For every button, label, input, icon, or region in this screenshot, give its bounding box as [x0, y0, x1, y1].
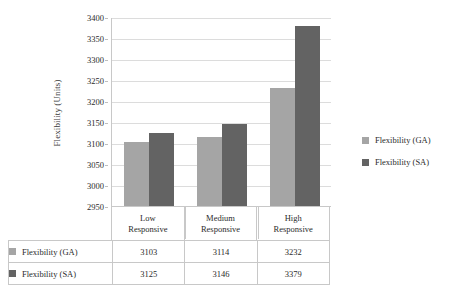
category-label-2: HighResponsive [257, 207, 330, 240]
y-tick-label: 3250 [87, 77, 104, 86]
data-table: Flexibility (GA)310331143232Flexibility … [8, 240, 330, 285]
y-tick-label: 3400 [87, 14, 104, 23]
legend-swatch-icon [362, 137, 369, 144]
category-label-line: Responsive [201, 224, 240, 235]
category-label-line: Responsive [128, 224, 167, 235]
y-tick-label: 3150 [87, 119, 104, 128]
y-axis-title: Flexibility (Units) [52, 18, 66, 208]
bar [149, 133, 174, 207]
category-axis-labels: LowResponsiveMediumResponsiveHighRespons… [111, 207, 330, 240]
y-tick-mark [105, 165, 108, 166]
bar-group [185, 18, 258, 206]
bar [295, 26, 320, 206]
category-label-line: Responsive [274, 224, 313, 235]
bar-group [112, 18, 185, 206]
table-row: Flexibility (SA)312531463379 [9, 263, 330, 285]
y-tick-mark [105, 186, 108, 187]
y-tick-mark [105, 207, 108, 208]
y-tick-label: 3300 [87, 56, 104, 65]
y-tick-mark [105, 81, 108, 82]
table-series-name-cell: Flexibility (GA) [9, 241, 113, 263]
y-axis-tick-labels: 2950300030503100315032003250330033503400 [74, 18, 108, 207]
legend-swatch-icon [362, 159, 369, 166]
y-tick-mark [105, 102, 108, 103]
y-tick-mark [105, 144, 108, 145]
table-value-cell: 3125 [113, 263, 185, 285]
y-tick-label: 3100 [87, 140, 104, 149]
bar [222, 124, 247, 206]
y-tick-mark [105, 39, 108, 40]
y-tick-mark [105, 18, 108, 19]
legend-label: Flexibility (GA) [375, 135, 430, 145]
y-tick-label: 3200 [87, 98, 104, 107]
table-value-cell: 3114 [185, 241, 257, 263]
legend-entry[interactable]: Flexibility (GA) [362, 131, 454, 149]
bar-group [258, 18, 331, 206]
category-label-line: Medium [206, 213, 235, 224]
chart-legend: Flexibility (GA)Flexibility (SA) [362, 131, 454, 175]
table-value-cell: 3103 [113, 241, 185, 263]
data-table-body: Flexibility (GA)310331143232Flexibility … [9, 241, 330, 285]
plot-area [111, 18, 330, 207]
category-label-line: Low [140, 213, 156, 224]
table-series-label: Flexibility (SA) [22, 269, 76, 279]
table-value-cell: 3232 [257, 241, 329, 263]
table-swatch-icon [9, 248, 16, 255]
legend-entry[interactable]: Flexibility (SA) [362, 153, 454, 171]
bar [124, 142, 149, 206]
bar [197, 137, 222, 206]
y-tick-mark [105, 123, 108, 124]
y-tick-label: 3000 [87, 182, 104, 191]
y-tick-mark [105, 60, 108, 61]
table-value-cell: 3379 [257, 263, 329, 285]
legend-label: Flexibility (SA) [375, 157, 429, 167]
y-tick-label: 2950 [87, 203, 104, 212]
category-label-line: High [285, 213, 302, 224]
table-value-cell: 3146 [185, 263, 257, 285]
y-tick-label: 3350 [87, 35, 104, 44]
table-series-label: Flexibility (GA) [22, 247, 77, 257]
table-series-name-cell: Flexibility (SA) [9, 263, 113, 285]
table-row: Flexibility (GA)310331143232 [9, 241, 330, 263]
bar-chart-figure: Flexibility (Units) 29503000305031003150… [0, 0, 455, 301]
category-label-1: MediumResponsive [185, 207, 258, 240]
category-label-0: LowResponsive [111, 207, 185, 240]
y-tick-label: 3050 [87, 161, 104, 170]
table-swatch-icon [9, 270, 16, 277]
bar [270, 88, 295, 206]
